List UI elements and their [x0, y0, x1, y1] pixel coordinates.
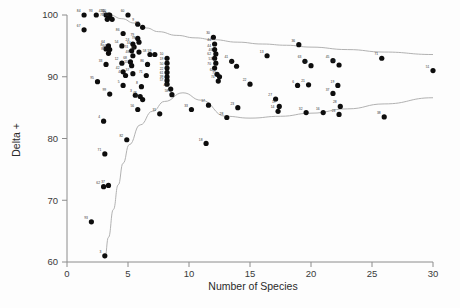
data-point-label: 21 — [301, 79, 305, 83]
x-tick-label: 5 — [125, 268, 130, 279]
data-point-label: 54 — [115, 40, 119, 44]
data-point[interactable] — [121, 31, 126, 36]
data-point-label: 78 — [132, 36, 136, 40]
data-point[interactable] — [140, 25, 145, 30]
data-point[interactable] — [121, 83, 126, 88]
data-point[interactable] — [140, 97, 145, 102]
data-point[interactable] — [129, 63, 134, 68]
data-point[interactable] — [234, 64, 239, 69]
data-point[interactable] — [379, 56, 384, 61]
data-point-label: 95 — [90, 76, 94, 80]
data-point[interactable] — [89, 219, 94, 224]
data-point[interactable] — [335, 83, 340, 88]
data-point-label: 93 — [84, 216, 88, 220]
data-point-label: 81 — [132, 46, 136, 50]
data-point-label: 28 — [333, 100, 337, 104]
data-point[interactable] — [235, 105, 240, 110]
data-point[interactable] — [213, 61, 218, 66]
data-point[interactable] — [101, 119, 106, 124]
data-point[interactable] — [224, 115, 229, 120]
data-point[interactable] — [169, 92, 174, 97]
data-point[interactable] — [189, 107, 194, 112]
data-point-label: 28 — [220, 112, 224, 116]
data-point-label: 41 — [224, 55, 228, 59]
data-point[interactable] — [125, 12, 130, 17]
data-point[interactable] — [336, 112, 341, 117]
data-point-label: 22 — [243, 78, 247, 82]
y-axis-title: Delta + — [10, 123, 22, 157]
data-point[interactable] — [203, 141, 208, 146]
data-point[interactable] — [430, 68, 435, 73]
data-point[interactable] — [130, 71, 135, 76]
data-point[interactable] — [95, 79, 100, 84]
data-point-label: 13 — [260, 50, 264, 54]
data-point-label: 3 — [130, 89, 132, 93]
data-point-label: 70 — [207, 62, 211, 66]
data-point[interactable] — [164, 61, 169, 66]
data-point[interactable] — [102, 253, 107, 258]
data-point[interactable] — [102, 151, 107, 156]
data-point[interactable] — [211, 35, 216, 40]
data-point[interactable] — [206, 103, 211, 108]
data-point[interactable] — [81, 12, 86, 17]
data-point-label: 23 — [332, 109, 336, 113]
data-point-label: 74 — [211, 75, 215, 79]
data-point[interactable] — [304, 110, 309, 115]
data-point[interactable] — [147, 52, 152, 57]
data-point[interactable] — [330, 91, 335, 96]
data-point[interactable] — [336, 62, 341, 67]
data-point-label: 85 — [101, 47, 105, 51]
data-point[interactable] — [106, 183, 111, 188]
data-point-label: 3 — [99, 250, 101, 254]
data-point[interactable] — [275, 109, 280, 114]
data-point[interactable] — [164, 56, 169, 61]
data-point-label: 10 — [160, 52, 164, 56]
data-point[interactable] — [308, 63, 313, 68]
data-point[interactable] — [101, 184, 106, 189]
data-point-label: 37 — [126, 68, 130, 72]
data-point[interactable] — [105, 17, 110, 22]
data-point-label: 57 — [160, 78, 164, 82]
data-point[interactable] — [123, 73, 128, 78]
data-point[interactable] — [130, 53, 135, 58]
data-point[interactable] — [135, 107, 140, 112]
data-point-label: 8 — [136, 81, 138, 85]
data-point[interactable] — [277, 104, 282, 109]
data-point[interactable] — [145, 62, 150, 67]
funnel-upper-curve — [110, 15, 433, 55]
data-point[interactable] — [136, 40, 141, 45]
data-point[interactable] — [264, 53, 269, 58]
data-point[interactable] — [216, 78, 221, 83]
data-point[interactable] — [139, 84, 144, 89]
data-point[interactable] — [144, 73, 149, 78]
data-point[interactable] — [295, 83, 300, 88]
data-point[interactable] — [107, 91, 112, 96]
data-point[interactable] — [124, 137, 129, 142]
data-point-label: 95 — [135, 94, 139, 98]
data-point[interactable] — [152, 52, 157, 57]
data-point[interactable] — [168, 87, 173, 92]
data-point-label: 36 — [292, 39, 296, 43]
data-point[interactable] — [321, 110, 326, 115]
data-point-label: 33 — [184, 104, 188, 108]
funnel-curves-group — [105, 15, 433, 258]
data-point[interactable] — [296, 42, 301, 47]
data-point[interactable] — [94, 12, 99, 17]
data-point[interactable] — [81, 27, 86, 32]
scatter-plot-figure: 60708090100051015202530 8493431560447690… — [0, 0, 460, 308]
data-point[interactable] — [306, 82, 311, 87]
data-point[interactable] — [212, 41, 217, 46]
data-point[interactable] — [382, 114, 387, 119]
data-point[interactable] — [157, 111, 162, 116]
data-point-label: 4 — [98, 115, 100, 119]
data-point[interactable] — [338, 104, 343, 109]
x-tick-label: 15 — [245, 268, 256, 279]
data-point[interactable] — [110, 17, 115, 22]
data-point[interactable] — [136, 49, 141, 54]
data-point[interactable] — [106, 51, 111, 56]
data-point-label: 27 — [268, 93, 272, 97]
data-point[interactable] — [247, 82, 252, 87]
data-point[interactable] — [212, 56, 217, 61]
data-point-label: 71 — [139, 70, 143, 74]
data-point[interactable] — [103, 62, 108, 67]
